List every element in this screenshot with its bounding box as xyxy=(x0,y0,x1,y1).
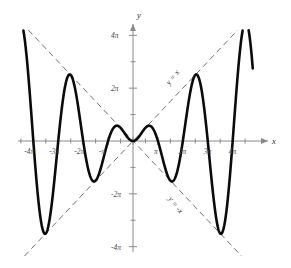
figure-container: -4π-3π-2π-ππ2π3π4π 4π2π-2π-4π x y y = xy… xyxy=(0,0,291,268)
x-axis-arrowhead xyxy=(261,138,268,144)
y-axis-arrowhead xyxy=(130,24,136,31)
envelope-line-y-equals-negative-x xyxy=(28,30,241,256)
y-tick-label: -2π xyxy=(111,190,121,199)
x-tick-label: -π xyxy=(99,147,105,156)
xsinx-plot: -4π-3π-2π-ππ2π3π4π 4π2π-2π-4π x y y = xy… xyxy=(0,0,291,268)
x-tick-label: 4π xyxy=(229,147,237,156)
y-axis-label: y xyxy=(136,10,141,20)
envelope-annotation: y = -x xyxy=(166,194,186,216)
axes-group xyxy=(18,24,268,252)
y-tick-label: 2π xyxy=(111,84,119,93)
x-tick-label: -3π xyxy=(49,147,59,156)
x-axis-label: x xyxy=(271,136,276,146)
envelope-line-y-equals-x xyxy=(25,30,238,256)
y-tick-label: 4π xyxy=(111,31,119,40)
envelope-annotation: y = x xyxy=(163,68,181,88)
x-tick-labels: -4π-3π-2π-ππ2π3π4π xyxy=(24,147,236,156)
x-tick-label: π xyxy=(154,147,158,156)
y-tick-label: -4π xyxy=(111,243,121,252)
x-tick-label: 2π xyxy=(179,147,187,156)
x-tick-label: -2π xyxy=(74,147,84,156)
x-tick-label: -4π xyxy=(24,147,34,156)
x-tick-label: 3π xyxy=(203,147,212,156)
